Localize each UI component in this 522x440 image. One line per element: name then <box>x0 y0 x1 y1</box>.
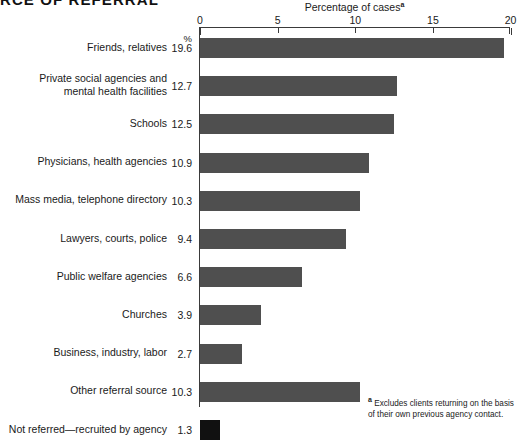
x-axis-end-tick <box>511 28 512 35</box>
value-label: 19.6 <box>160 42 192 54</box>
footnote-text: Excludes clients returning on the basis … <box>368 399 514 419</box>
footnote-marker: a <box>368 396 372 403</box>
bar <box>200 344 242 364</box>
x-axis-tick-mark <box>278 28 279 33</box>
x-axis-end-tick <box>200 28 201 35</box>
bar <box>200 229 346 249</box>
bar <box>200 267 302 287</box>
category-label: Mass media, telephone directory <box>15 193 167 206</box>
value-label: 10.3 <box>160 386 192 398</box>
bar <box>200 114 394 134</box>
value-label: 1.3 <box>160 424 192 436</box>
bar <box>200 382 360 402</box>
x-axis-tick-mark <box>433 28 434 33</box>
value-label: 9.4 <box>160 233 192 245</box>
category-label: Public welfare agencies <box>57 270 167 283</box>
value-label: 12.7 <box>160 80 192 92</box>
bar <box>200 191 360 211</box>
category-label: Friends, relatives <box>87 41 167 54</box>
bar <box>200 153 369 173</box>
bar <box>200 76 397 96</box>
value-label: 10.3 <box>160 195 192 207</box>
x-axis-tick-mark <box>355 28 356 33</box>
category-label: Business, industry, labor <box>53 346 167 359</box>
category-label: Lawyers, courts, police <box>60 232 167 245</box>
value-label: 3.9 <box>160 309 192 321</box>
footnote: a Excludes clients returning on the basi… <box>368 399 518 420</box>
bar <box>200 38 504 58</box>
value-label: 2.7 <box>160 348 192 360</box>
bar <box>200 420 220 440</box>
bar <box>200 305 261 325</box>
category-label: Not referred—recruited by agency <box>9 423 167 436</box>
value-label: 6.6 <box>160 271 192 283</box>
category-label: Other referral source <box>70 384 167 397</box>
value-label: 10.9 <box>160 157 192 169</box>
category-label: Private social agencies and mental healt… <box>39 72 167 98</box>
value-label: 12.5 <box>160 118 192 130</box>
category-label: Physicians, health agencies <box>37 155 167 168</box>
